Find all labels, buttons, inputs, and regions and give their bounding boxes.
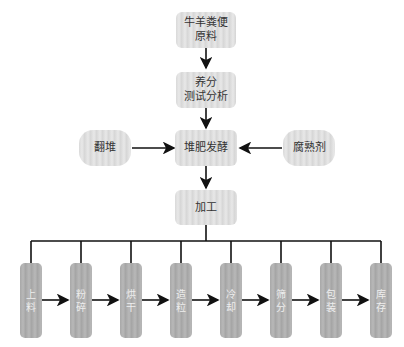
step-crushing: 粉碎 [70,263,92,338]
node-test-line2: 测试分析 [184,90,228,104]
node-processing-label: 加工 [195,201,217,215]
step-cooling: 冷却 [220,263,242,338]
node-raw-line2: 原料 [184,30,228,44]
connector-lines [0,0,404,347]
step-label: 冷却 [225,288,237,314]
step-label: 造粒 [175,288,187,314]
step-label: 上料 [25,288,37,314]
step-label: 烘干 [125,288,137,314]
step-granulating: 造粒 [170,263,192,338]
node-raw-line1: 牛羊粪便 [184,16,228,30]
step-drying: 烘干 [120,263,142,338]
step-screening: 筛分 [270,263,292,338]
node-processing: 加工 [175,190,237,225]
node-maturing-agent: 腐熟剂 [283,130,335,166]
step-label: 筛分 [275,288,287,314]
node-raw-material: 牛羊粪便原料 [176,12,236,48]
node-turn-pile: 翻堆 [79,130,131,166]
step-label: 包装 [325,288,337,314]
step-loading: 上料 [20,263,42,338]
node-ferment-label: 堆肥发酵 [184,141,228,155]
node-test-line1: 养分 [184,76,228,90]
step-label: 库存 [375,288,387,314]
node-nutrient-test: 养分测试分析 [176,72,236,108]
node-compost-ferment: 堆肥发酵 [175,130,237,166]
step-packaging: 包装 [320,263,342,338]
node-turn-label: 翻堆 [94,141,116,155]
step-label: 粉碎 [75,288,87,314]
node-agent-label: 腐熟剂 [293,141,326,155]
step-storage: 库存 [370,263,392,338]
